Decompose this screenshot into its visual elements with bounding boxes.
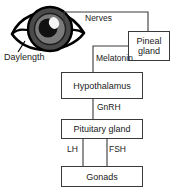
node-hypothalamus[interactable]: Hypothalamus	[61, 72, 143, 99]
node-gonads-label: Gonads	[62, 171, 142, 181]
node-pituitary-gland-label: Pituitary gland	[62, 124, 142, 134]
node-pineal-gland[interactable]: Pineal gland	[128, 31, 170, 61]
node-hypothalamus-label: Hypothalamus	[62, 80, 142, 90]
node-pineal-gland-line1: Pineal	[136, 36, 161, 46]
edge-label-gnrh: GnRH	[97, 103, 121, 112]
edge-label-lh: LH	[67, 145, 78, 154]
node-pineal-gland-line2: gland	[138, 46, 160, 56]
diagram-canvas: Daylength Nerves Melatonin GnRH LH FSH P…	[0, 0, 177, 195]
node-pituitary-gland[interactable]: Pituitary gland	[61, 119, 143, 139]
node-gonads[interactable]: Gonads	[61, 166, 143, 187]
edge-label-fsh: FSH	[109, 145, 126, 154]
node-pineal-gland-label: Pineal gland	[129, 36, 169, 57]
eye-icon	[12, 7, 84, 52]
edge-label-nerves: Nerves	[85, 14, 112, 23]
daylength-label: Daylength	[4, 53, 45, 62]
